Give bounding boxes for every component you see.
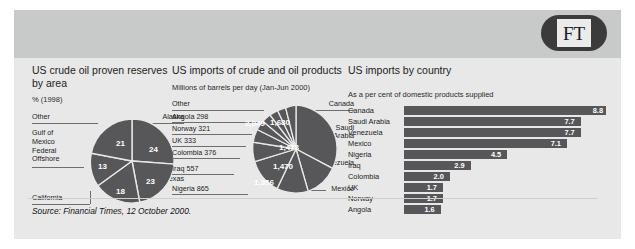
callout-uk: UK 333 [172,137,196,146]
bar-row: Angola 1.6 [348,205,606,215]
callout-norway: Norway 321 [172,125,210,134]
bar-label-uk: UK [348,183,404,192]
callout-gulf-of-mexico: Gulf of Mexico Federal Offshore [32,129,59,164]
bar-value-colombia: 2.0 [434,172,444,181]
bar-value-angola: 1.6 [424,205,434,214]
slice-value-alaska: 24 [149,145,158,154]
panel-imports-crude-oil-products: US imports of crude and oil products Mil… [172,64,354,207]
slice-value-saudi-arabia: 1,478 [279,143,299,152]
callout-rule-norway [172,134,252,135]
bar-track-canada: 8.8 [404,106,606,115]
callout-rule-colombia [172,158,240,159]
bar-track-iraq: 2.9 [404,161,606,170]
bar-label-canada: Canada [348,106,404,115]
bar-label-colombia: Colombia [348,172,404,181]
slice-value-other-imports: 2,049 [245,119,265,128]
callout-rule-gulf [32,167,84,168]
bar-fill-saudi-arabia [404,117,581,126]
bar-value-iraq: 2.9 [454,161,464,170]
bar-value-uk: 1.7 [427,183,437,192]
slice-value-other: 21 [116,139,125,148]
slice-value-texas: 23 [146,177,155,186]
bar-track-colombia: 2.0 [404,172,606,181]
panel-crude-oil-reserves: US crude oil proven reserves by area % (… [32,64,184,219]
source-suffix: , 12 October 2000. [122,206,191,216]
ft-chart-figure: FT US crude oil proven reserves by area … [14,10,621,239]
callout-rule-uk [172,146,246,147]
bar-label-iraq: Iraq [348,161,404,170]
bar-fill-uk [404,183,443,192]
panel-title-country: US imports by country [348,64,606,77]
source-note: Source: Financial Times, 12 October 2000… [32,206,191,216]
bar-track-uk: 1.7 [404,183,606,192]
bar-track-saudi-arabia: 7.7 [404,117,606,126]
callout-iraq: Iraq 557 [172,165,198,174]
panel-title-imports: US imports of crude and oil products [172,64,354,77]
callout-rule-nigeria [172,194,248,195]
slice-value-california: 18 [116,187,125,196]
bar-track-mexico: 7.1 [404,139,606,148]
pie-chart-imports: Other Angola 298 Norway 321 UK 333 Colom… [172,99,354,207]
callout-other-reserves: Other [32,113,50,122]
callout-other-imports: Other [172,100,190,109]
callout-rule-iraq [172,174,234,175]
bar-fill-canada [404,106,606,115]
bar-row: Canada 8.8 [348,106,606,116]
source-prefix: Source: [32,206,63,216]
bar-value-mexico: 7.1 [551,139,561,148]
panel-subtitle-reserves: % (1998) [32,95,184,104]
bar-row: Venezuela 7.7 [348,128,606,138]
panel-title-reserves: US crude oil proven reserves by area [32,64,184,89]
header-band [14,10,621,58]
panel-imports-by-country: US imports by country As a per cent of d… [348,64,606,216]
ft-logo-text: FT [557,19,591,47]
callout-angola: Angola 298 [172,113,208,122]
slice-value-canada: 1,680 [270,118,290,127]
panel-subtitle-country: As a per cent of domestic products suppl… [348,90,606,99]
bar-label-angola: Angola [348,205,404,214]
bar-fill-mexico [404,139,567,148]
bar-label-mexico: Mexico [348,139,404,148]
bar-label-nigeria: Nigeria [348,150,404,159]
bar-label-venezuela: Venezuela [348,128,404,137]
bar-value-saudi-arabia: 7.7 [564,117,574,126]
bar-row: Nigeria 4.5 [348,150,606,160]
slice-value-venezuela: 1,470 [273,162,293,171]
slice-value-mexico: 1,356 [254,178,274,187]
bar-label-saudi-arabia: Saudi Arabia [348,117,404,126]
bar-fill-angola [404,205,441,214]
pie-chart-reserves: Other Gulf of Mexico Federal Offshore Ca… [32,111,184,219]
bar-row: Saudi Arabia 7.7 [348,117,606,127]
slice-value-gulf: 13 [98,162,107,171]
bar-value-venezuela: 7.7 [564,128,574,137]
callout-colombia: Colombia 376 [172,149,216,158]
bar-track-nigeria: 4.5 [404,150,606,159]
bar-row: UK 1.7 [348,183,606,193]
pie-graphic-reserves [88,117,176,205]
bar-track-angola: 1.6 [404,205,606,214]
bar-row: Iraq 2.9 [348,161,606,171]
bar-row: Mexico 7.1 [348,139,606,149]
ft-logo: FT [541,15,607,51]
callout-rule-california [32,204,90,205]
bar-row: Colombia 2.0 [348,172,606,182]
bar-fill-venezuela [404,128,581,137]
bar-value-nigeria: 4.5 [491,150,501,159]
source-divider [28,198,598,199]
bar-value-canada: 8.8 [593,106,603,115]
source-publication: Financial Times [63,206,122,216]
bar-track-venezuela: 7.7 [404,128,606,137]
panel-subtitle-imports: Millions of barrels per day (Jan-Jun 200… [172,83,354,92]
callout-nigeria: Nigeria 865 [172,185,209,194]
